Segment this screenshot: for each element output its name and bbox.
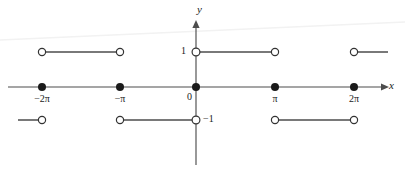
- filled-point-2pi: [350, 83, 358, 91]
- graph-canvas: [0, 0, 405, 171]
- x-tick-label-pi: π: [272, 94, 277, 104]
- origin-label: 0: [187, 92, 192, 102]
- y-tick-label-neg1: −1: [203, 114, 214, 124]
- open-point-lower-negpi: [116, 116, 123, 123]
- open-point-lower-neg2pi: [38, 116, 45, 123]
- open-point-lower-2pi: [350, 116, 357, 123]
- scan-artifact-line: [0, 22, 405, 40]
- y-axis-arrowhead: [192, 20, 199, 28]
- open-point-upper-2pi: [350, 48, 357, 55]
- open-point-lower-pi: [271, 116, 278, 123]
- function-graph-figure: y x 1 −1 0 −2π −π π 2π: [0, 0, 405, 171]
- x-axis-label: x: [389, 80, 394, 91]
- open-point-lower-zero: [192, 116, 200, 124]
- open-point-upper-negpi: [116, 48, 123, 55]
- x-tick-label-2pi: 2π: [349, 94, 359, 104]
- y-tick-label-1: 1: [181, 46, 186, 56]
- y-axis: [192, 20, 199, 165]
- filled-point-neg2pi: [38, 83, 46, 91]
- x-tick-label-negpi: −π: [115, 94, 126, 104]
- y-axis-label: y: [197, 4, 202, 15]
- open-point-upper-neg2pi: [38, 48, 45, 55]
- open-point-upper-zero: [192, 48, 200, 56]
- step-function-segments: [18, 52, 388, 120]
- filled-point-pi: [271, 83, 279, 91]
- filled-point-negpi: [116, 83, 124, 91]
- open-point-upper-pi: [271, 48, 278, 55]
- filled-point-zero: [192, 83, 200, 91]
- x-axis-arrowhead: [381, 83, 389, 90]
- x-tick-label-neg2pi: −2π: [34, 94, 50, 104]
